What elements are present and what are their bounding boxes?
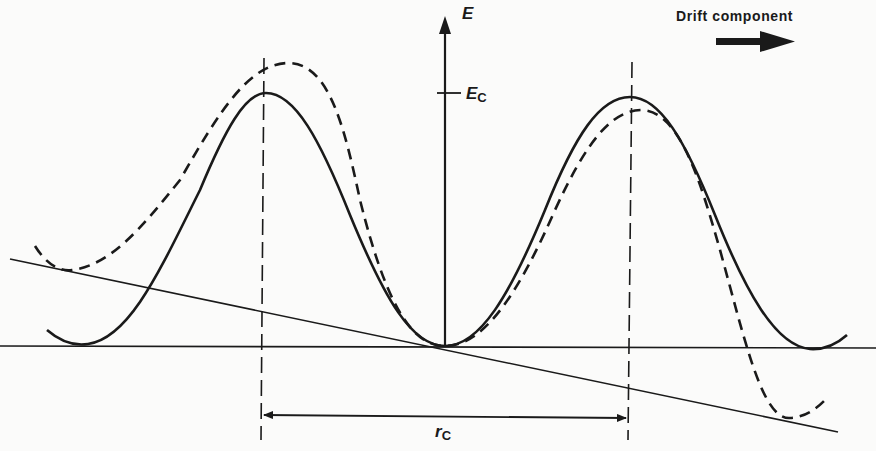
energy-axis-label: E [462, 4, 473, 24]
drift-arrow [716, 31, 795, 52]
critical-energy-subscript: C [477, 90, 486, 105]
critical-distance-arrow [264, 415, 626, 418]
energy-axis-arrowhead [439, 16, 451, 34]
left-maximum-marker [261, 58, 264, 440]
tilt-line [10, 259, 838, 432]
right-maximum-marker [628, 62, 632, 440]
perturbed-potential-curve [35, 63, 825, 418]
diagram-canvas [0, 0, 876, 451]
unperturbed-potential-curve [47, 93, 847, 349]
critical-energy-label: EC [466, 84, 487, 105]
critical-distance-subscript: C [442, 428, 451, 443]
critical-distance-symbol: r [435, 422, 442, 441]
critical-energy-symbol: E [466, 84, 477, 103]
drift-component-label: Drift component [676, 8, 793, 24]
critical-distance-label: rC [435, 422, 451, 443]
